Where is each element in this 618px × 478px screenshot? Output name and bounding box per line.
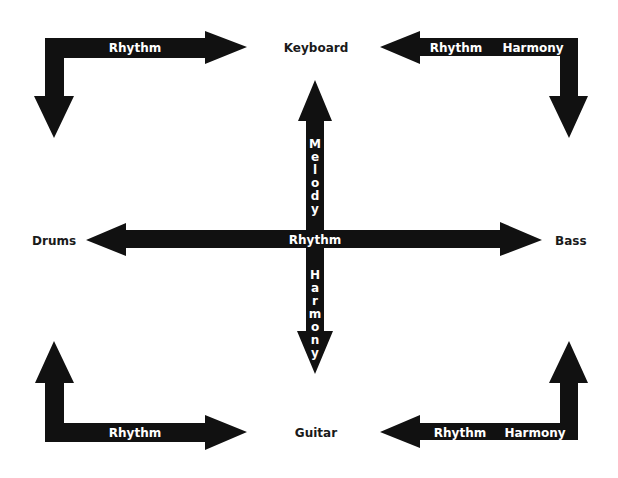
node-guitar: Guitar	[295, 426, 337, 440]
vertical-label-letter: o	[311, 320, 319, 334]
vertical-label-letter: a	[311, 281, 319, 295]
node-drums: Drums	[32, 234, 76, 248]
vertical-label-letter: n	[311, 333, 320, 347]
arrow-top-right: Rhythm Harmony	[380, 31, 588, 138]
vertical-label-letter: M	[309, 137, 321, 151]
arrow-bottom-right-label-rhythm: Rhythm	[434, 426, 486, 440]
vertical-label-letter: H	[310, 268, 320, 282]
vertical-label-letter: l	[313, 163, 317, 177]
arrow-bottom-left-label: Rhythm	[109, 426, 161, 440]
vertical-label-letter: e	[311, 150, 319, 164]
vertical-label-letter: d	[311, 189, 320, 203]
arrow-bottom-right-label-harmony: Harmony	[504, 426, 565, 440]
arrow-bottom-right: Rhythm Harmony	[380, 341, 588, 448]
vertical-label-letter: r	[312, 294, 318, 308]
vertical-label-letter: m	[309, 307, 322, 321]
vertical-label-letter: o	[311, 176, 319, 190]
node-bass: Bass	[555, 234, 587, 248]
vertical-label-letter: y	[311, 202, 319, 216]
arrow-top-right-label-rhythm: Rhythm	[430, 41, 482, 55]
arrow-top-right-label-harmony: Harmony	[502, 41, 563, 55]
arrow-top-left: Rhythm	[34, 31, 247, 138]
node-keyboard: Keyboard	[284, 41, 349, 55]
vertical-label-letter: y	[311, 346, 319, 360]
arrow-top-left-label: Rhythm	[109, 41, 161, 55]
band-interaction-diagram: Rhythm Rhythm Harmony Rhythm Melody Harm…	[0, 0, 618, 478]
arrow-bottom-left: Rhythm	[35, 341, 247, 450]
arrow-center-horizontal-label: Rhythm	[289, 233, 341, 247]
